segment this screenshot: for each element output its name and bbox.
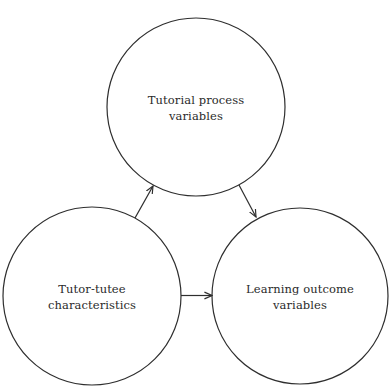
label-learning-outcome: Learning outcome variables xyxy=(220,281,380,313)
arrow-tutor-tutee-to-tutorial-process xyxy=(135,186,153,218)
label-tutor-tutee: Tutor-tutee characteristics xyxy=(12,281,172,313)
arrow-tutorial-process-to-learning-outcome xyxy=(239,185,256,217)
label-line: Tutor-tutee xyxy=(12,281,172,297)
label-line: variables xyxy=(220,297,380,313)
label-line: characteristics xyxy=(12,297,172,313)
label-tutorial-process: Tutorial process variables xyxy=(116,92,276,124)
label-line: variables xyxy=(116,108,276,124)
diagram-canvas xyxy=(0,0,389,392)
label-line: Tutorial process xyxy=(116,92,276,108)
label-line: Learning outcome xyxy=(220,281,380,297)
